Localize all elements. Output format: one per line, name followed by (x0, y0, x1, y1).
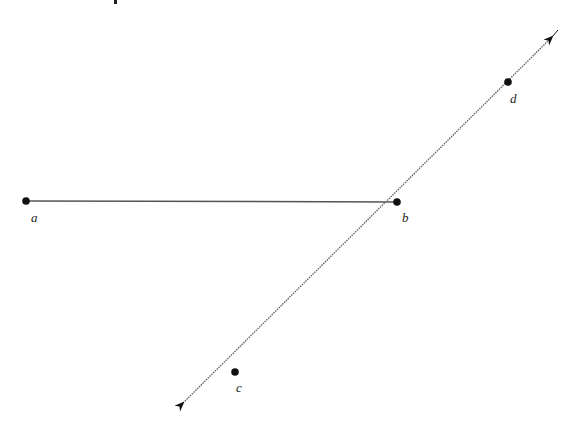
diagram-canvas: a b c d (0, 0, 574, 441)
clipped-heading-fragment (114, 0, 117, 4)
label-c: c (236, 380, 242, 395)
label-d: d (510, 91, 517, 106)
point-a (22, 197, 30, 205)
arrow-end-icon (552, 30, 558, 37)
point-d (504, 78, 512, 86)
diagram-svg: a b c d (0, 0, 574, 441)
point-b (393, 198, 401, 206)
label-b: b (402, 210, 409, 225)
label-a: a (31, 210, 38, 225)
segment-ab (26, 201, 397, 202)
point-c (231, 368, 239, 376)
line-cd (183, 37, 552, 403)
